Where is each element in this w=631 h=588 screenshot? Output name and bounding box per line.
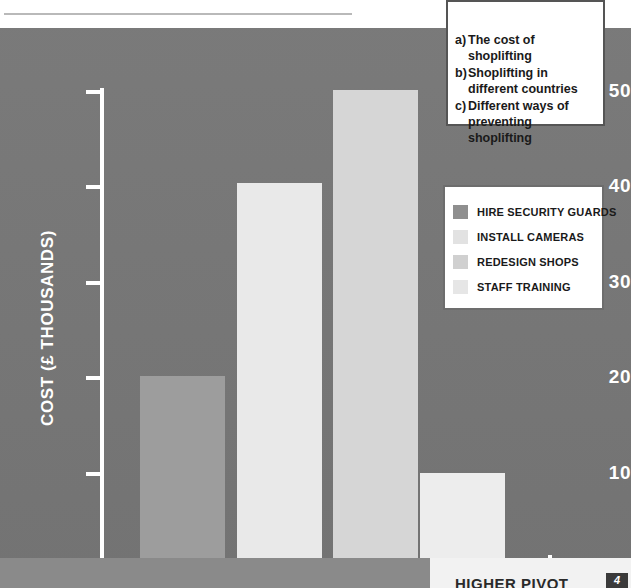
y-tick-10 <box>86 472 100 476</box>
legend-label-redesign-shops: REDESIGN SHOPS <box>477 256 579 268</box>
chart-page: COST (£ THOUSANDS) 0 10 20 30 40 50 a) T… <box>0 0 631 588</box>
y-tick-50 <box>86 90 100 94</box>
bar-install-cameras[interactable] <box>237 183 322 568</box>
y-tick-label-20: 20 <box>553 366 631 388</box>
y-tick-30 <box>86 281 100 285</box>
footer-page-badge: 4 <box>606 573 628 588</box>
y-axis-line <box>100 88 104 572</box>
question-marker-a: a) <box>455 32 468 48</box>
bar-hire-security-guards[interactable] <box>140 376 225 568</box>
y-tick-40 <box>86 185 100 189</box>
legend-swatch-install-cameras <box>453 230 468 244</box>
question-text-b: Shoplifting in different countries <box>468 65 596 97</box>
chart-plot-area: COST (£ THOUSANDS) 0 10 20 30 40 50 a) T… <box>0 28 631 558</box>
legend-label-install-cameras: INSTALL CAMERAS <box>477 231 584 243</box>
question-item-c: c) Different ways of preventing shoplift… <box>455 98 596 146</box>
legend-item-redesign-shops: REDESIGN SHOPS <box>453 249 594 274</box>
question-marker-c: c) <box>455 98 468 114</box>
chart-legend: HIRE SECURITY GUARDS INSTALL CAMERAS RED… <box>443 185 604 310</box>
y-axis-title: COST (£ THOUSANDS) <box>38 188 58 468</box>
question-item-b: b) Shoplifting in different countries <box>455 65 596 97</box>
question-text-a: The cost of shoplifting <box>468 32 596 64</box>
legend-swatch-staff-training <box>453 280 468 294</box>
question-text-c: Different ways of preventing shoplifting <box>468 98 596 146</box>
bar-staff-training[interactable] <box>420 473 505 568</box>
legend-swatch-redesign-shops <box>453 255 468 269</box>
footer-band-grey <box>0 558 430 588</box>
header-rule <box>4 13 352 15</box>
legend-swatch-hire-security-guards <box>453 205 468 219</box>
footer-caption: HIGHER PIVOT <box>455 575 569 588</box>
legend-item-hire-security-guards: HIRE SECURITY GUARDS <box>453 199 594 224</box>
legend-item-staff-training: STAFF TRAINING <box>453 274 594 299</box>
legend-label-staff-training: STAFF TRAINING <box>477 281 571 293</box>
y-tick-20 <box>86 376 100 380</box>
question-item-a: a) The cost of shoplifting <box>455 32 596 64</box>
question-marker-b: b) <box>455 65 468 81</box>
bar-redesign-shops[interactable] <box>333 90 418 568</box>
question-list-box: a) The cost of shoplifting b) Shopliftin… <box>446 0 605 126</box>
y-tick-label-10: 10 <box>553 462 631 484</box>
legend-item-install-cameras: INSTALL CAMERAS <box>453 224 594 249</box>
legend-label-hire-security-guards: HIRE SECURITY GUARDS <box>477 206 616 218</box>
